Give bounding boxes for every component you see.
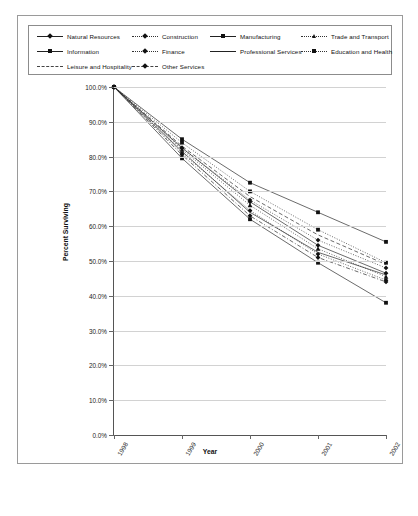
gridline (114, 226, 386, 227)
data-point-marker (384, 301, 388, 305)
data-point-marker (316, 210, 320, 214)
y-axis-tick (109, 400, 114, 401)
series-line (114, 87, 386, 265)
data-point-marker (316, 246, 321, 251)
x-axis-tick (182, 435, 183, 439)
y-axis-tick-label: 40.0% (89, 292, 107, 299)
y-axis-tick (109, 157, 114, 158)
gridline (114, 191, 386, 192)
y-axis-tick-label: 0.0% (92, 432, 107, 439)
y-axis-tick (109, 331, 114, 332)
y-axis-tick-label: 70.0% (89, 188, 107, 195)
data-point-marker (384, 240, 388, 244)
data-point-marker (248, 203, 253, 208)
x-axis-tick (114, 435, 115, 439)
plot-area: 0.0%10.0%20.0%30.0%40.0%50.0%60.0%70.0%8… (113, 87, 386, 436)
y-axis-tick (109, 226, 114, 227)
y-axis-tick (109, 296, 114, 297)
data-point-marker (180, 137, 184, 141)
y-axis-tick-label: 90.0% (89, 118, 107, 125)
gridline (114, 365, 386, 366)
y-axis-tick-label: 20.0% (89, 362, 107, 369)
y-axis-tick (109, 87, 114, 88)
data-point-marker (384, 266, 389, 271)
x-axis-label: Year (18, 448, 402, 455)
x-axis-tick (386, 435, 387, 439)
y-axis-label: Percent Surviving (62, 203, 69, 261)
y-axis-tick-label: 30.0% (89, 327, 107, 334)
series-line (114, 87, 386, 263)
series-line (114, 87, 386, 273)
y-axis-tick (109, 191, 114, 192)
series-line (114, 87, 386, 268)
gridline (114, 87, 386, 88)
data-point-marker (248, 181, 252, 185)
gridline (114, 331, 386, 332)
chart-frame: Natural Resources Construction Manufactu… (17, 15, 403, 464)
x-axis-tick (250, 435, 251, 439)
gridline (114, 157, 386, 158)
series-line (114, 87, 386, 303)
y-axis-tick (109, 365, 114, 366)
x-axis-tick (318, 435, 319, 439)
y-axis-tick (109, 261, 114, 262)
plot-area-wrapper: Percent Surviving 0.0%10.0%20.0%30.0%40.… (18, 16, 402, 463)
y-axis-tick (109, 122, 114, 123)
y-axis-tick-label: 60.0% (89, 223, 107, 230)
chart-page: Natural Resources Construction Manufactu… (0, 0, 418, 516)
y-axis-tick-label: 10.0% (89, 397, 107, 404)
gridline (114, 296, 386, 297)
y-axis-tick-label: 50.0% (89, 258, 107, 265)
gridline (114, 261, 386, 262)
data-point-marker (316, 255, 321, 260)
y-axis-tick-label: 100.0% (85, 84, 107, 91)
gridline (114, 122, 386, 123)
data-point-marker (180, 141, 184, 145)
y-axis-tick-label: 80.0% (89, 153, 107, 160)
data-point-marker (316, 238, 321, 243)
gridline (114, 400, 386, 401)
data-point-marker (316, 228, 320, 232)
